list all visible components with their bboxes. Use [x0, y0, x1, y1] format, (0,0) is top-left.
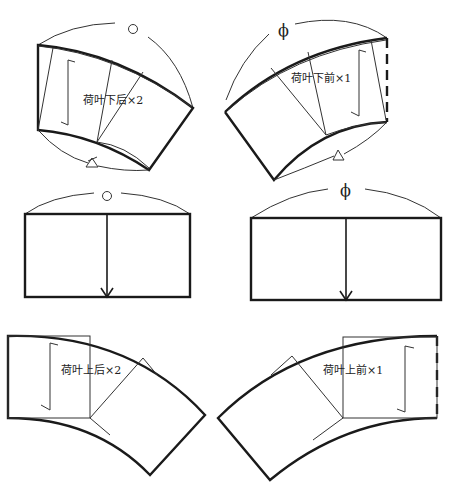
- circle-notch-icon: [129, 25, 138, 34]
- hem-arc: [38, 130, 88, 163]
- length-arc: [365, 189, 441, 218]
- triangle-notch-icon: [333, 150, 344, 160]
- hem-arc: [274, 156, 334, 180]
- pattern-diagram: 荷叶下后×2 ϕ 荷叶下前×1 ϕ: [0, 0, 449, 502]
- length-arc: [148, 37, 193, 108]
- piece-label: 荷叶下后×2: [83, 94, 143, 107]
- piece-rect-front: ϕ: [251, 181, 441, 300]
- piece-outline: [225, 38, 387, 180]
- grain-line-icon: [351, 50, 366, 116]
- length-arc: [251, 189, 328, 218]
- piece-upper-back: 荷叶上后×2: [8, 336, 205, 475]
- phi-notch-icon: ϕ: [278, 21, 289, 40]
- piece-label: 荷叶下前×1: [291, 71, 351, 85]
- length-arc: [295, 20, 387, 38]
- piece-outline: [8, 336, 205, 475]
- piece-outline: [38, 45, 193, 170]
- length-arc: [226, 34, 269, 100]
- piece-lower-front: ϕ 荷叶下前×1: [225, 20, 387, 180]
- piece-lower-back: 荷叶下后×2: [38, 23, 193, 171]
- grain-line-icon: [61, 60, 75, 125]
- piece-rect-back: [25, 192, 190, 298]
- length-arc: [38, 23, 115, 45]
- triangle-notch-icon: [86, 157, 98, 167]
- length-arc: [25, 193, 94, 214]
- circle-notch-icon: [103, 192, 112, 201]
- piece-upper-front: 荷叶上前×1: [218, 336, 437, 480]
- length-arc: [121, 193, 190, 214]
- grain-line-icon: [41, 343, 58, 410]
- phi-notch-icon: ϕ: [340, 181, 351, 200]
- piece-label: 荷叶上后×2: [61, 364, 121, 377]
- piece-label: 荷叶上前×1: [323, 363, 383, 377]
- grain-line-icon: [397, 346, 414, 412]
- piece-outline: [218, 336, 437, 480]
